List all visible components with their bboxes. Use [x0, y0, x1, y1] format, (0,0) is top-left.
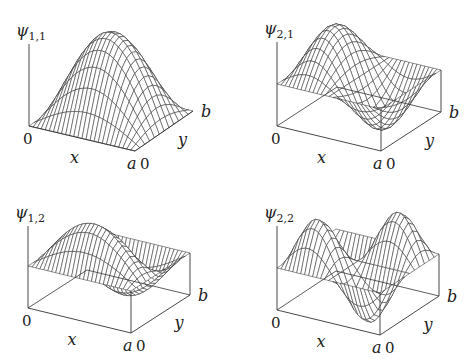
surface-wireframe	[28, 223, 190, 295]
panel-psi-1-1: ψ1,10xa0yb	[16, 21, 211, 173]
box-back-edge	[28, 270, 190, 308]
eigenfunction-figure: ψ1,10xa0yb ψ2,10xa0yb ψ1,20xa0yb ψ2,20xa…	[0, 0, 464, 359]
x-axis-label: x	[70, 148, 79, 167]
y-origin-label: 0	[386, 155, 396, 173]
x-axis-label: x	[68, 330, 77, 349]
y-axis-label: y	[423, 315, 434, 334]
surface-wireframe	[29, 32, 193, 151]
y-axis-label: y	[177, 130, 188, 149]
panel-psi-1-2: ψ1,20xa0yb	[15, 203, 208, 355]
x-origin-label: 0	[23, 130, 33, 148]
x-end-label-a: a	[373, 154, 383, 173]
function-title: ψ1,2	[15, 203, 45, 225]
surface-wireframe	[277, 24, 441, 130]
panel-psi-2-1: ψ2,10xa0yb	[264, 19, 459, 173]
x-axis-label: x	[317, 148, 326, 167]
y-axis-label: y	[174, 313, 185, 332]
x-origin-label: 0	[22, 312, 32, 330]
x-origin-label: 0	[271, 314, 281, 332]
y-origin-label: 0	[385, 339, 395, 357]
function-title: ψ2,1	[264, 19, 294, 41]
y-end-label-b: b	[201, 102, 211, 121]
base-front-edges	[277, 112, 441, 151]
function-title: ψ1,1	[16, 21, 46, 43]
x-origin-label: 0	[271, 130, 281, 148]
x-end-label-a: a	[123, 336, 133, 355]
x-end-label-a: a	[127, 154, 137, 173]
y-origin-label: 0	[136, 337, 146, 355]
x-axis-label: x	[317, 332, 326, 351]
y-origin-label: 0	[140, 155, 150, 173]
y-axis-label: y	[424, 131, 435, 150]
y-end-label-b: b	[447, 287, 457, 306]
panel-psi-2-2: ψ2,20xa0yb	[264, 203, 457, 357]
x-end-label-a: a	[372, 338, 382, 357]
function-title: ψ2,2	[264, 203, 294, 225]
y-end-label-b: b	[449, 103, 459, 122]
surface-wireframe	[277, 212, 439, 322]
y-end-label-b: b	[198, 286, 208, 305]
base-front-edges	[28, 295, 190, 333]
